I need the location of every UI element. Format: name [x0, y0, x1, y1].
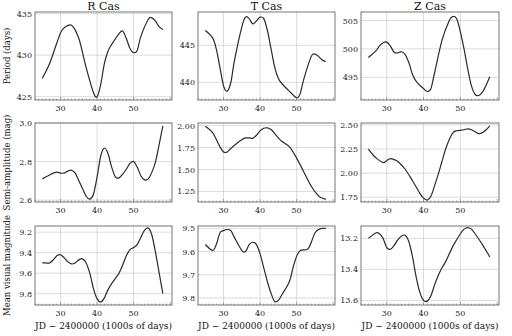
x-tick-label: 30 [382, 104, 392, 113]
y-tick-label: 1.75 [177, 144, 195, 153]
x-tick-label: 30 [382, 206, 392, 215]
x-tick-label: 40 [255, 206, 265, 215]
x-axis-label: JD − 2400000 (1000s of days) [197, 321, 335, 331]
x-tick-label: 40 [92, 309, 102, 318]
y-tick-label: 445 [180, 41, 195, 50]
y-tick-label: 13.6 [340, 296, 358, 305]
x-tick-label: 50 [292, 104, 302, 113]
y-tick-label: 13.2 [340, 234, 358, 243]
x-tick-label: 30 [55, 104, 65, 113]
y-tick-label: 13.4 [340, 265, 358, 274]
y-axis-label: Mean visual magnitude [2, 215, 12, 316]
y-tick-label: 9.8 [19, 290, 32, 299]
x-tick-label: 40 [418, 206, 428, 215]
x-tick-label: 40 [92, 206, 102, 215]
x-tick-label: 50 [292, 206, 302, 215]
y-tick-label: 2.6 [19, 196, 32, 205]
panel-r-cas-row0: 304050425430435R CasPeriod (days) [2, 0, 172, 113]
x-tick-label: 30 [218, 309, 228, 318]
y-tick-label: 1.50 [177, 166, 195, 175]
x-tick-label: 40 [255, 104, 265, 113]
y-tick-label: 2.00 [340, 169, 358, 178]
y-tick-label: 2.8 [19, 158, 32, 167]
x-tick-label: 30 [218, 104, 228, 113]
y-axis-label: Period (days) [2, 28, 12, 85]
y-tick-label: 9.2 [19, 228, 32, 237]
x-tick-label: 30 [55, 206, 65, 215]
panel-title: T Cas [251, 0, 283, 13]
panel-r-cas-row2: 3040509.29.49.69.8Mean visual magnitudeJ… [2, 215, 172, 331]
y-tick-label: 9.7 [182, 271, 195, 280]
y-tick-label: 1.75 [340, 193, 358, 202]
panel-z-cas-row1: 3040501.752.002.252.50 [340, 121, 499, 215]
x-tick-label: 50 [455, 309, 465, 318]
chart-grid: 304050425430435R CasPeriod (days)3040504… [0, 0, 512, 336]
plot-frame [35, 123, 172, 202]
plot-frame [35, 12, 172, 100]
x-tick-label: 40 [92, 104, 102, 113]
y-axis-label: Semi-amplitude (mag) [2, 115, 12, 211]
y-tick-label: 9.8 [182, 294, 195, 303]
plot-frame [361, 12, 499, 100]
y-tick-label: 2.00 [177, 122, 195, 131]
x-axis-label: JD − 2400000 (1000s of days) [34, 321, 172, 331]
y-tick-label: 430 [17, 51, 32, 60]
x-tick-label: 40 [418, 309, 428, 318]
x-tick-label: 50 [292, 309, 302, 318]
y-tick-label: 1.25 [177, 187, 195, 196]
panel-t-cas-row1: 3040501.251.501.752.00 [177, 122, 335, 215]
y-tick-label: 9.6 [182, 248, 195, 257]
panel-z-cas-row2: 30405013.213.413.6JD − 2400000 (1000s of… [340, 226, 499, 331]
x-tick-label: 40 [418, 104, 428, 113]
x-axis-label: JD − 2400000 (1000s of days) [361, 321, 499, 331]
x-tick-label: 40 [255, 309, 265, 318]
x-tick-label: 30 [382, 309, 392, 318]
x-tick-label: 30 [55, 309, 65, 318]
x-tick-label: 50 [129, 309, 139, 318]
x-tick-label: 30 [218, 206, 228, 215]
x-tick-label: 50 [129, 104, 139, 113]
x-tick-label: 50 [129, 206, 139, 215]
panel-r-cas-row1: 3040502.62.83.0Semi-amplitude (mag) [2, 115, 172, 215]
y-tick-label: 9.5 [182, 224, 195, 233]
y-tick-label: 425 [17, 93, 32, 102]
y-tick-label: 495 [343, 73, 358, 82]
panel-title: Z Cas [414, 0, 446, 13]
x-tick-label: 50 [455, 206, 465, 215]
panel-z-cas-row0: 304050495500505Z Cas [343, 0, 499, 113]
y-tick-label: 9.4 [19, 249, 32, 258]
x-tick-label: 50 [455, 104, 465, 113]
y-tick-label: 2.25 [340, 145, 358, 154]
panel-t-cas-row2: 3040509.59.69.79.8JD − 2400000 (1000s of… [182, 224, 335, 331]
y-tick-label: 435 [17, 10, 32, 19]
plot-frame [35, 226, 172, 305]
y-tick-label: 2.50 [340, 121, 358, 130]
panel-t-cas-row0: 304050440445T Cas [180, 0, 335, 113]
y-tick-label: 3.0 [19, 119, 32, 128]
y-tick-label: 440 [180, 78, 195, 87]
panel-title: R Cas [87, 0, 120, 13]
y-tick-label: 500 [343, 45, 358, 54]
y-tick-label: 9.6 [19, 269, 32, 278]
y-tick-label: 505 [343, 17, 358, 26]
